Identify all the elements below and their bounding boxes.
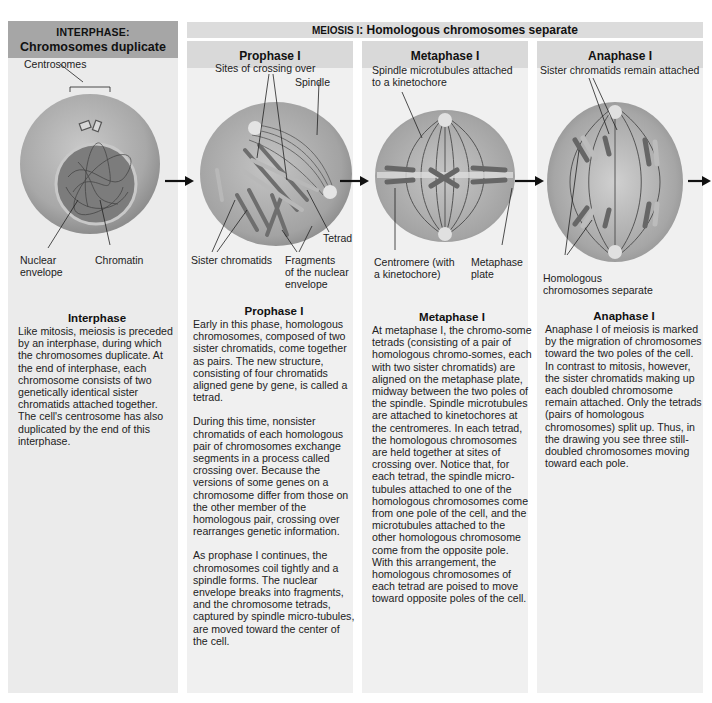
label-centromere-line1: Centromere (with bbox=[374, 256, 455, 268]
label-nuclear-envelope-line1: Nuclear bbox=[20, 254, 56, 266]
metaphase-description: Metaphase I At metaphase I, the chromo-s… bbox=[372, 311, 532, 617]
interphase-description: Interphase Like mitosis, meiosis is prec… bbox=[18, 312, 176, 459]
anaphase-leader-lines bbox=[537, 60, 707, 300]
label-centrosomes: Centrosomes bbox=[24, 58, 86, 70]
meiosis-banner-text: : Homologous chromosomes separate bbox=[359, 23, 578, 37]
interphase-description-text: Like mitosis, meiosis is preceded by an … bbox=[18, 325, 176, 447]
label-sites-of-crossing-over: Sites of crossing over bbox=[215, 62, 315, 74]
label-fragments-line1: Fragments bbox=[285, 254, 335, 266]
anaphase-description-text: Anaphase I of meiosis is marked by the m… bbox=[545, 323, 703, 469]
label-chromatin: Chromatin bbox=[95, 254, 143, 266]
label-spindle-microtubules-line1: Spindle microtubules attached bbox=[372, 64, 513, 76]
prophase-description-p1: Early in this phase, homologous chromoso… bbox=[193, 318, 355, 403]
prophase-description-p2: During this time, nonsister chromatids o… bbox=[193, 415, 355, 537]
interphase-leader-lines bbox=[20, 40, 140, 280]
label-spindle-microtubules-line2: to a kinetochore bbox=[372, 76, 447, 88]
prophase-description-p3: As prophase I continues, the chromosomes… bbox=[193, 549, 355, 647]
label-metaphase-plate-line1: Metaphase bbox=[471, 256, 523, 268]
arrow-right-icon bbox=[515, 175, 545, 187]
anaphase-description: Anaphase I Anaphase I of meiosis is mark… bbox=[545, 310, 703, 481]
interphase-description-title: Interphase bbox=[18, 312, 176, 325]
prophase-description: Prophase I Early in this phase, homologo… bbox=[193, 305, 355, 659]
label-tetrad: Tetrad bbox=[323, 232, 352, 244]
arrow-right-icon bbox=[165, 175, 195, 187]
metaphase-description-text: At metaphase I, the chromo-some tetrads … bbox=[372, 324, 532, 605]
label-spindle: Spindle bbox=[295, 76, 330, 88]
meiosis-banner-prefix: MEIOSIS I bbox=[312, 25, 359, 36]
interphase-header-small: INTERPHASE: bbox=[8, 25, 178, 40]
arrow-right-icon bbox=[688, 175, 712, 187]
meiosis-banner: MEIOSIS I: Homologous chromosomes separa… bbox=[187, 22, 703, 38]
label-sister-chromatids: Sister chromatids bbox=[191, 254, 272, 266]
arrow-right-icon bbox=[340, 175, 370, 187]
label-fragments-line3: envelope bbox=[285, 278, 328, 290]
label-nuclear-envelope-line2: envelope bbox=[20, 266, 63, 278]
label-centromere-line2: a kinetochore) bbox=[374, 268, 441, 280]
label-metaphase-plate-line2: plate bbox=[471, 268, 494, 280]
label-homologous-line2: chromosomes separate bbox=[543, 284, 653, 296]
label-fragments-line2: of the nuclear bbox=[285, 266, 349, 278]
label-sister-chromatids-remain-attached: Sister chromatids remain attached bbox=[540, 64, 699, 76]
prophase-description-title: Prophase I bbox=[193, 305, 355, 318]
metaphase-description-title: Metaphase I bbox=[372, 311, 532, 324]
label-homologous-line1: Homologous bbox=[543, 272, 602, 284]
anaphase-description-title: Anaphase I bbox=[545, 310, 703, 323]
